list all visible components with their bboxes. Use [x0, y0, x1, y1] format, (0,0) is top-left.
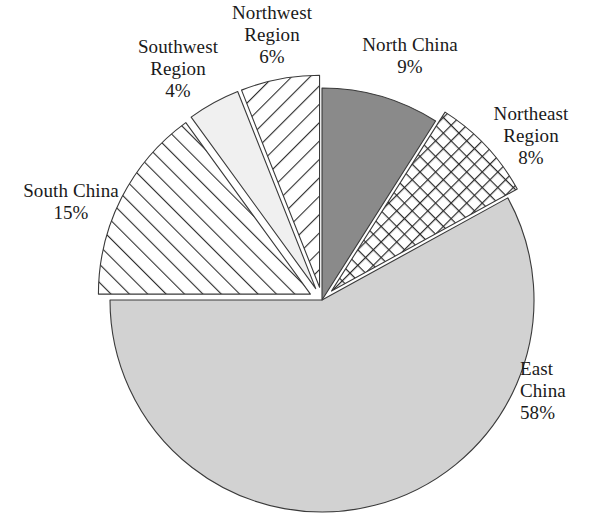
pie-chart-svg	[0, 0, 592, 526]
pie-label-southwest-region: Southwest Region 4%	[118, 36, 238, 102]
pie-label-northeast-region: Northeast Region 8%	[472, 103, 590, 169]
pie-label-north-china: North China 9%	[340, 34, 480, 78]
pie-label-east-china: East China 58%	[520, 358, 590, 424]
pie-chart-figure: Northwest Region 6% Southwest Region 4% …	[0, 0, 592, 526]
pie-label-south-china: South China 15%	[2, 180, 140, 224]
